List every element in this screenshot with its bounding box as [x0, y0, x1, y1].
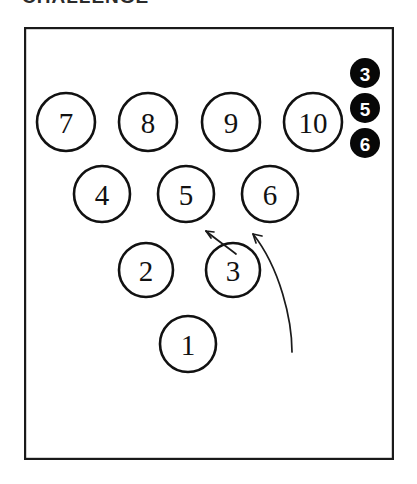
pin-label-10: 10	[299, 107, 328, 139]
pin-label-9: 9	[224, 107, 239, 139]
pin-label-5: 5	[179, 179, 194, 211]
pin-4: 4	[74, 166, 130, 222]
pin-label-3: 3	[226, 255, 241, 287]
pin-label-6: 6	[263, 179, 278, 211]
marked-pin-label-5: 5	[360, 99, 371, 120]
marked-pin-3: 3	[350, 58, 380, 88]
clipped-caption-text: CHALLENGE	[22, 0, 149, 3]
figure-root: CHALLENGE 78910456231 356	[0, 0, 417, 484]
pin-label-4: 4	[95, 179, 110, 211]
bowling-pin-diagram: 78910456231 356	[0, 0, 417, 484]
marked-pin-legend-group: 356	[350, 58, 380, 158]
pin-8: 8	[119, 93, 177, 151]
pin-label-8: 8	[141, 107, 156, 139]
pin-label-1: 1	[181, 329, 196, 361]
pin-label-7: 7	[59, 107, 74, 139]
pin-2: 2	[119, 243, 173, 297]
long-arrow-curve	[253, 234, 292, 352]
marked-pin-5: 5	[350, 93, 380, 123]
diagram-border-frame	[25, 28, 393, 459]
marked-pin-label-3: 3	[360, 64, 371, 85]
pin-5: 5	[158, 166, 214, 222]
pin-7: 7	[37, 93, 95, 151]
pin-1: 1	[160, 316, 216, 372]
long-arrow	[253, 234, 292, 352]
pin-label-2: 2	[139, 255, 154, 287]
marked-pin-6: 6	[350, 128, 380, 158]
marked-pin-label-6: 6	[360, 134, 371, 155]
pin-9: 9	[202, 93, 260, 151]
pin-10: 10	[284, 93, 342, 151]
pin-6: 6	[242, 166, 298, 222]
pin-triangle-group: 78910456231	[37, 93, 342, 372]
